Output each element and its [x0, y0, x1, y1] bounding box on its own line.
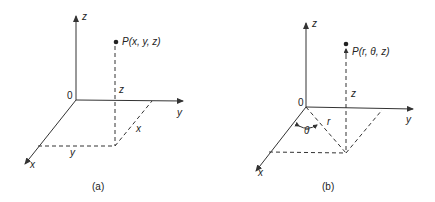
y-axis-a	[76, 100, 183, 101]
y-dim-dashed-b	[346, 110, 382, 153]
y-axis-b	[306, 107, 413, 109]
x-axis-b	[256, 107, 306, 171]
z-axis-label-b: z	[312, 19, 317, 29]
point-p-a	[114, 40, 119, 45]
height-label-b: z	[351, 89, 356, 99]
caption-b: (b)	[322, 182, 334, 192]
x-axis-label-a: x	[30, 160, 35, 170]
x-axis-a	[25, 100, 76, 164]
radius-label-b: r	[327, 117, 330, 127]
point-label-a: P(x, y, z)	[122, 37, 161, 47]
z-axis-label-a: z	[82, 12, 87, 22]
x-dim-label-a: x	[136, 124, 141, 134]
coordinate-diagrams	[0, 0, 435, 202]
y-dim-label-a: y	[70, 148, 75, 158]
angle-label-b: θ	[304, 126, 309, 136]
point-p-b	[344, 42, 349, 47]
radius-dashed-b	[306, 107, 346, 153]
point-label-b: P(r, θ, z)	[352, 47, 390, 57]
origin-label-b: 0	[298, 98, 304, 108]
origin-label-a: 0	[67, 91, 73, 101]
x-dim-dashed-a	[115, 101, 152, 146]
y-axis-label-b: y	[406, 115, 411, 125]
x-dim-dashed-b	[269, 152, 346, 153]
x-axis-label-b: x	[258, 168, 263, 178]
caption-a: (a)	[92, 182, 104, 192]
y-axis-label-a: y	[177, 108, 182, 118]
height-label-a: z	[119, 85, 124, 95]
